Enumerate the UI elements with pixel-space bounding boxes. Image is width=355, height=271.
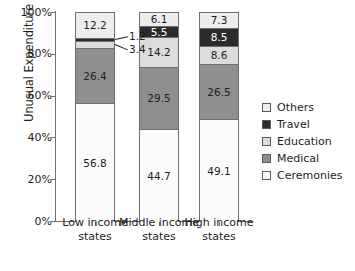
segment-value-label: 8.6 <box>211 50 228 61</box>
segment-ceremonies[interactable]: 56.8 <box>76 103 114 222</box>
segment-value-label: 6.1 <box>151 14 168 25</box>
legend-item-ceremonies[interactable]: Ceremonies <box>262 167 355 183</box>
segment-value-label: 56.8 <box>83 158 106 169</box>
y-tick-mark <box>51 54 55 55</box>
bar-high-income-states[interactable]: 7.38.58.626.549.1 <box>199 12 239 221</box>
segment-others[interactable]: 6.1 <box>140 13 178 26</box>
callout-label-travel: 1.2 <box>129 31 146 42</box>
legend-item-education[interactable]: Education <box>262 133 355 149</box>
segment-travel[interactable]: 8.5 <box>200 28 238 46</box>
segment-medical[interactable]: 26.4 <box>76 48 114 103</box>
legend-swatch-icon <box>262 171 271 180</box>
legend-item-others[interactable]: Others <box>262 99 355 115</box>
segment-others[interactable]: 7.3 <box>200 13 238 28</box>
stacked-bar-chart: Unusual Expenditure 100%80%60%40%20%0% 1… <box>0 0 355 271</box>
legend-swatch-icon <box>262 103 271 112</box>
legend-label: Travel <box>277 119 310 130</box>
segment-value-label: 12.2 <box>83 20 106 31</box>
segment-education[interactable]: 3.4 <box>76 41 114 48</box>
chart-legend: OthersTravelEducationMedicalCeremonies <box>262 99 355 184</box>
segment-ceremonies[interactable]: 44.7 <box>140 129 178 222</box>
segment-education[interactable]: 8.6 <box>200 46 238 64</box>
segment-value-label: 49.1 <box>207 166 230 177</box>
y-tick-mark <box>51 96 55 97</box>
legend-label: Ceremonies <box>277 170 342 181</box>
segment-medical[interactable]: 29.5 <box>140 67 178 129</box>
y-tick-mark <box>51 12 55 13</box>
segment-medical[interactable]: 26.5 <box>200 64 238 119</box>
legend-label: Others <box>277 102 314 113</box>
segment-value-label: 29.5 <box>147 93 170 104</box>
x-axis-label: High incomestates <box>177 216 261 243</box>
x-axis-label-line: states <box>177 230 261 244</box>
segment-value-label: 14.2 <box>147 47 170 58</box>
y-tick-label: 80% <box>14 48 52 59</box>
segment-value-label: 8.5 <box>211 32 228 43</box>
y-axis-tick-labels: 100%80%60%40%20%0% <box>8 0 52 271</box>
segment-value-label: 7.3 <box>211 15 228 26</box>
legend-swatch-icon <box>262 120 271 129</box>
y-tick-label: 100% <box>14 7 52 18</box>
legend-item-travel[interactable]: Travel <box>262 116 355 132</box>
segment-ceremonies[interactable]: 49.1 <box>200 119 238 222</box>
y-tick-label: 20% <box>14 174 52 185</box>
segment-value-label: 5.5 <box>151 27 168 38</box>
legend-swatch-icon <box>262 154 271 163</box>
legend-label: Education <box>277 136 332 147</box>
y-tick-mark <box>51 137 55 138</box>
segment-others[interactable]: 12.2 <box>76 13 114 38</box>
segment-value-label: 44.7 <box>147 171 170 182</box>
segment-value-label: 26.4 <box>83 71 106 82</box>
x-axis-label-line: High income <box>177 216 261 230</box>
y-tick-label: 40% <box>14 132 52 143</box>
callout-label-education: 3.4 <box>129 44 146 55</box>
legend-item-medical[interactable]: Medical <box>262 150 355 166</box>
y-tick-label: 60% <box>14 90 52 101</box>
bar-low-income-states[interactable]: 12.21.23.426.456.8 <box>75 12 115 221</box>
segment-value-label: 26.5 <box>207 87 230 98</box>
y-tick-label: 0% <box>14 216 52 227</box>
y-tick-mark <box>51 179 55 180</box>
legend-label: Medical <box>277 153 319 164</box>
plot-area: 12.21.23.426.456.86.15.514.229.544.77.38… <box>56 12 252 221</box>
y-axis-line <box>55 11 56 222</box>
legend-swatch-icon <box>262 137 271 146</box>
